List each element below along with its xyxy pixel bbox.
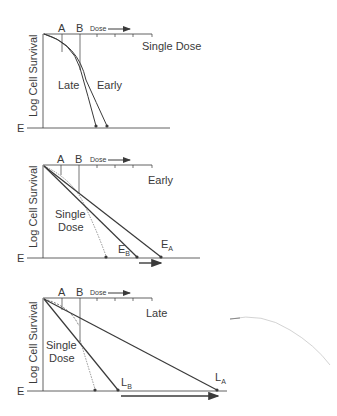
dose-label: Dose [90, 156, 106, 163]
marker-b-label: B [75, 153, 82, 165]
panel-single-dose: A B Dose E Log Cell Survival Single Dose… [17, 22, 201, 134]
single-dose-endpoint-dot [93, 388, 96, 391]
lb-label: LB [121, 376, 132, 390]
marker-a-label: A [58, 286, 66, 298]
single-dose-curve [80, 340, 95, 389]
dose-label: Dose [90, 289, 106, 296]
eb-label: EB [118, 243, 130, 257]
single-dose-label-line2: Dose [58, 221, 84, 233]
marker-a-label: A [58, 22, 66, 34]
endpoint-label: E [17, 385, 24, 397]
ea-label: EA [161, 238, 173, 252]
early-curve-label: Early [97, 79, 123, 91]
panel-title: Late [146, 307, 167, 319]
single-dose-label-line2: Dose [49, 352, 75, 364]
panel-title: Early [148, 174, 174, 186]
dose-axis-ticks [97, 34, 152, 37]
stray-mark-tip [230, 318, 240, 319]
dose-label: Dose [90, 25, 106, 32]
late-endpoint-dot [94, 124, 97, 127]
panel-late: A B Dose E Log Cell Survival Late Single… [17, 286, 227, 397]
stray-pencil-mark [230, 317, 330, 365]
marker-b-label: B [76, 286, 83, 298]
y-axis-label: Log Cell Survival [27, 34, 39, 117]
marker-a-label: A [57, 153, 65, 165]
ea-endpoint-dot [159, 255, 162, 258]
marker-b-label: B [76, 22, 83, 34]
eb-endpoint-dot [135, 255, 138, 258]
la-endpoint-dot [215, 388, 218, 391]
endpoint-label: E [17, 252, 24, 264]
dose-axis-ticks [97, 165, 152, 168]
lb-endpoint-dot [116, 388, 119, 391]
panel-early: A B Dose E Log Cell Survival Early Singl… [17, 153, 200, 264]
survival-curves-diagram: A B Dose E Log Cell Survival Single Dose… [0, 0, 337, 416]
early-endpoint-dot [105, 124, 108, 127]
single-dose-endpoint-dot [104, 255, 107, 258]
la-label: LA [215, 371, 226, 385]
y-axis-label: Log Cell Survival [27, 301, 39, 384]
single-dose-label-line1: Single [46, 339, 77, 351]
panel-title: Single Dose [142, 40, 201, 52]
single-dose-label-line1: Single [55, 208, 86, 220]
y-axis-label: Log Cell Survival [27, 165, 39, 248]
late-curve-label: Late [58, 79, 79, 91]
endpoint-label: E [17, 122, 24, 134]
dashed-initial-curve [44, 299, 79, 326]
dose-axis-ticks [97, 298, 152, 301]
